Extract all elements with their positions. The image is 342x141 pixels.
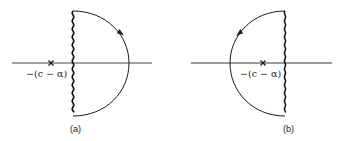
pole-label: −(c − α) (240, 68, 281, 79)
wavy-vertical-line (284, 11, 285, 112)
wavy-vertical-line (72, 11, 74, 112)
pole-label: −(c − α) (26, 68, 67, 79)
panel-a: −(c − α) (a) (12, 11, 152, 134)
panel-caption: (b) (283, 124, 294, 134)
semicircle-contour (230, 11, 285, 116)
panel-caption: (a) (70, 124, 81, 134)
contour-diagram: −(c − α) (a) −(c − α) (b) (0, 0, 342, 141)
panel-b: −(c − α) (b) (191, 11, 332, 134)
semicircle-contour (73, 11, 129, 116)
